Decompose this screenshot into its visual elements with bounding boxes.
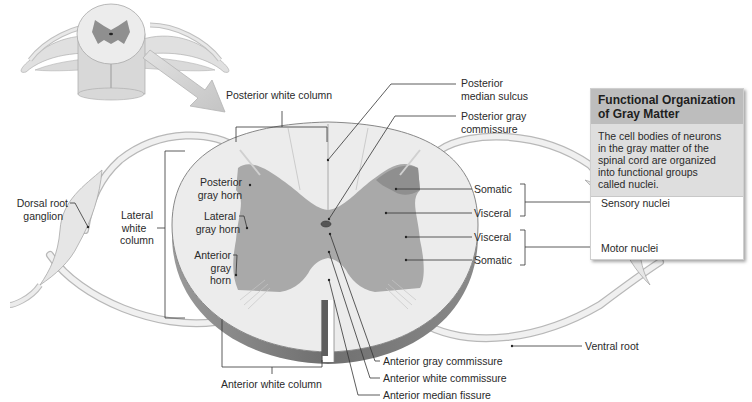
- label-posterior-median-sulcus-line1: Posterior: [461, 77, 503, 89]
- label-anterior-gray-horn-line1: Anterior: [180, 249, 231, 261]
- label-anterior-median-fissure: Anterior median fissure: [383, 389, 491, 401]
- label-posterior-gray-commissure-line2: commissure: [461, 123, 518, 135]
- label-somatic-motor: Somatic: [474, 254, 512, 266]
- central-canal: [321, 221, 331, 227]
- label-ventral-root: Ventral root: [585, 340, 639, 352]
- info-box-title: Functional Organization of Gray Matter: [591, 89, 743, 124]
- info-box-body-line5: called nuclei.: [598, 178, 736, 190]
- label-motor-nuclei: Motor nuclei: [601, 242, 658, 254]
- label-lateral-gray-horn-line1: Lateral: [180, 210, 236, 222]
- label-lateral-white-column-line3: column: [112, 234, 162, 246]
- label-posterior-median-sulcus-line2: median sulcus: [461, 90, 528, 102]
- label-anterior-gray-commissure: Anterior gray commissure: [383, 355, 503, 367]
- label-dorsal-root-ganglion-line2: ganglion: [8, 210, 63, 222]
- info-box-body-line1: The cell bodies of neurons: [598, 130, 736, 142]
- info-box-title-line2: of Gray Matter: [598, 107, 736, 121]
- label-lateral-white-column-line2: white: [112, 222, 156, 234]
- info-box-body-line4: into functional groups: [598, 166, 736, 178]
- label-posterior-white-column: Posterior white column: [226, 89, 332, 101]
- label-anterior-gray-horn-line3: horn: [180, 274, 231, 286]
- info-box-title-line1: Functional Organization: [598, 93, 736, 107]
- label-anterior-white-commissure: Anterior white commissure: [383, 372, 507, 384]
- info-box-body-line3: spinal cord are organized: [598, 154, 736, 166]
- info-box-description: The cell bodies of neurons in the gray m…: [591, 124, 743, 197]
- label-anterior-white-column: Anterior white column: [221, 378, 322, 390]
- label-lateral-white-column-line1: Lateral: [112, 209, 162, 221]
- label-posterior-gray-commissure-line1: Posterior gray: [461, 110, 526, 122]
- label-somatic-sensory: Somatic: [474, 183, 512, 195]
- label-posterior-gray-horn-line1: Posterior: [182, 176, 242, 188]
- cord-cross-section: [172, 122, 478, 364]
- label-lateral-gray-horn-line2: gray horn: [180, 223, 240, 235]
- functional-organization-box: Functional Organization of Gray Matter T…: [590, 88, 744, 260]
- info-box-body-line2: in the gray matter of the: [598, 142, 736, 154]
- label-visceral-sensory: Visceral: [474, 207, 511, 219]
- label-anterior-gray-horn-line2: gray: [180, 262, 231, 274]
- label-dorsal-root-ganglion-line1: Dorsal root: [8, 197, 68, 209]
- label-posterior-gray-horn-line2: gray horn: [182, 189, 242, 201]
- label-visceral-motor: Visceral: [474, 231, 511, 243]
- label-sensory-nuclei: Sensory nuclei: [601, 197, 670, 209]
